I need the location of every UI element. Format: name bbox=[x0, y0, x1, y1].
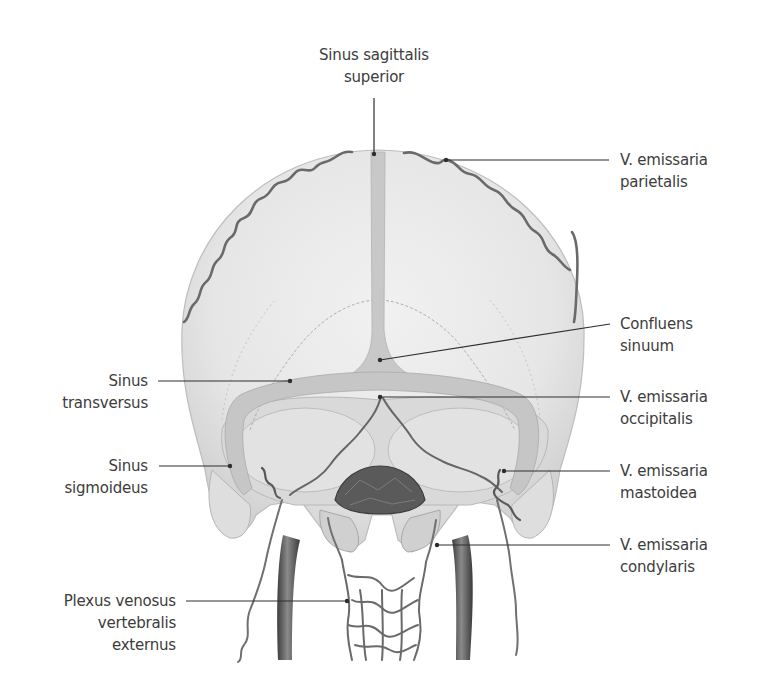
label-v-emissaria-mastoidea: V. emissaria mastoidea bbox=[620, 460, 708, 504]
label-line: Sinus sagittalis bbox=[294, 44, 454, 66]
label-confluens-sinuum: Confluens sinuum bbox=[620, 313, 693, 357]
label-line: superior bbox=[294, 66, 454, 88]
label-line: sinuum bbox=[620, 335, 693, 357]
label-sinus-transversus: Sinus transversus bbox=[20, 370, 148, 414]
label-line: V. emissaria bbox=[620, 386, 708, 408]
label-sinus-sagittalis-superior: Sinus sagittalis superior bbox=[294, 44, 454, 88]
label-line: Sinus bbox=[20, 370, 148, 392]
label-line: V. emissaria bbox=[620, 534, 708, 556]
anatomy-figure: Sinus sagittalis superior V. emissaria p… bbox=[0, 0, 762, 692]
label-sinus-sigmoideus: Sinus sigmoideus bbox=[20, 455, 148, 499]
label-v-emissaria-condylaris: V. emissaria condylaris bbox=[620, 534, 708, 578]
label-line: vertebralis bbox=[20, 612, 176, 634]
label-line: V. emissaria bbox=[620, 460, 708, 482]
label-line: parietalis bbox=[620, 171, 708, 193]
label-line: Confluens bbox=[620, 313, 693, 335]
label-line: Plexus venosus bbox=[20, 590, 176, 612]
vertebral-venous-plexus bbox=[342, 560, 426, 660]
label-line: Sinus bbox=[20, 455, 148, 477]
label-v-emissaria-occipitalis: V. emissaria occipitalis bbox=[620, 386, 708, 430]
label-line: sigmoideus bbox=[20, 477, 148, 499]
label-line: occipitalis bbox=[620, 408, 708, 430]
label-line: V. emissaria bbox=[620, 149, 708, 171]
label-line: mastoidea bbox=[620, 482, 708, 504]
label-line: condylaris bbox=[620, 556, 708, 578]
label-line: transversus bbox=[20, 392, 148, 414]
label-line: externus bbox=[20, 634, 176, 656]
label-v-emissaria-parietalis: V. emissaria parietalis bbox=[620, 149, 708, 193]
internal-jugular-veins bbox=[277, 535, 473, 660]
label-plexus-venosus-vertebralis-externus: Plexus venosus vertebralis externus bbox=[20, 590, 176, 656]
